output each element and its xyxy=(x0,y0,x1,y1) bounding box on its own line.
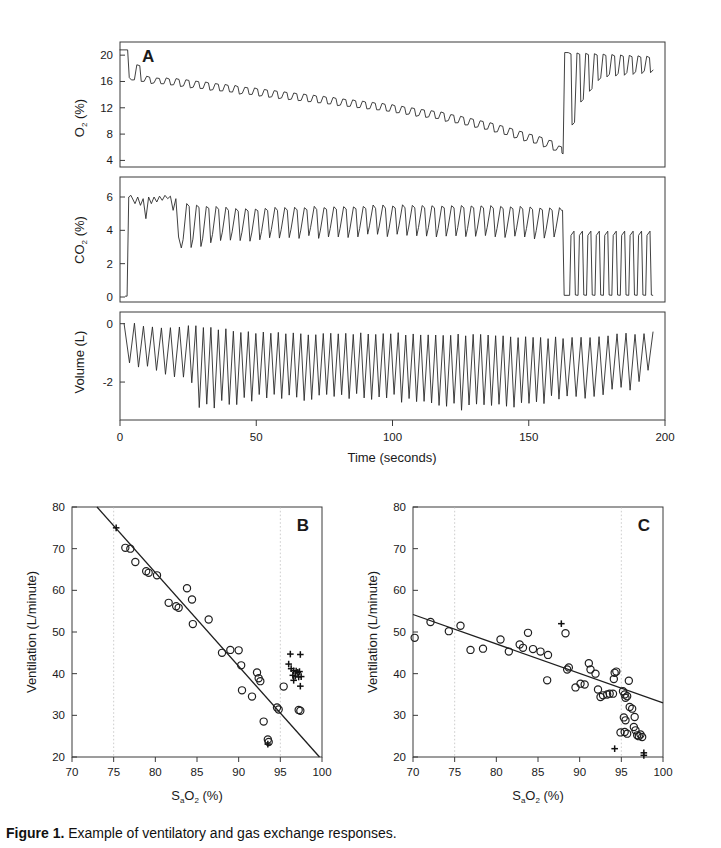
data-point-circle xyxy=(280,683,287,690)
data-point-plus xyxy=(287,651,294,658)
caption-text: Example of ventilatory and gas exchange … xyxy=(68,825,396,841)
data-point-circle xyxy=(592,670,599,677)
panel-c-y-axis-text: Ventilation (L/minute) xyxy=(365,571,380,693)
data-point-circle xyxy=(524,629,531,636)
tick-label: 75 xyxy=(448,766,461,778)
tick-label: 85 xyxy=(191,766,204,778)
data-point-circle xyxy=(581,681,588,688)
data-point-circle xyxy=(248,693,255,700)
panel-c-x-o: O xyxy=(525,788,535,803)
panel-a-x-axis-label: Time (seconds) xyxy=(347,450,436,465)
data-point-circle xyxy=(544,677,551,684)
tick-label: 16 xyxy=(100,75,113,87)
data-point-circle xyxy=(457,622,464,629)
tick-label: 95 xyxy=(615,766,628,778)
panel-a-x-ticks: 050100150200 xyxy=(117,420,675,443)
tick-label: 150 xyxy=(519,431,538,443)
oxygen-y-ticks: 48121620 xyxy=(100,49,125,166)
data-point-plus xyxy=(558,620,565,627)
volume-y-ticks: 0-2 xyxy=(103,318,125,388)
data-point-circle xyxy=(165,599,172,606)
panel-a-co2-subplot: 0246 CO2 (%) xyxy=(72,177,665,303)
figure-container: 48121620 A O2 (%) 0246 CO2 (%) xyxy=(0,0,721,848)
tick-label: 6 xyxy=(107,191,113,203)
tick-label: 70 xyxy=(393,543,406,555)
co2-label-unit: (%) xyxy=(72,216,87,240)
volume-label-text: Volume (L) xyxy=(72,331,87,394)
panel-b-x-unit: (%) xyxy=(199,788,223,803)
tick-label: 100 xyxy=(383,431,402,443)
data-point-circle xyxy=(562,630,569,637)
data-point-circle xyxy=(238,687,245,694)
tick-label: 90 xyxy=(573,766,586,778)
tick-label: 30 xyxy=(52,709,65,721)
tick-label: 2 xyxy=(107,258,113,270)
tick-label: 80 xyxy=(490,766,503,778)
tick-label: 200 xyxy=(655,431,674,443)
panel-c-x-s: S xyxy=(512,788,521,803)
tick-label: 8 xyxy=(107,128,113,140)
panel-c: 707580859095100 20304050607080 C Ventila… xyxy=(365,501,673,805)
panel-a-oxygen-subplot: 48121620 A O2 (%) xyxy=(72,42,665,167)
data-point-circle xyxy=(235,647,242,654)
tick-label: 70 xyxy=(407,766,420,778)
data-point-circle xyxy=(631,713,638,720)
panel-c-x-unit: (%) xyxy=(540,788,564,803)
data-point-plus xyxy=(297,683,304,690)
data-point-circle xyxy=(572,684,579,691)
panel-b: 707580859095100 20304050607080 B Ventila… xyxy=(24,501,332,805)
panel-b-plot-frame xyxy=(72,507,322,757)
oxygen-axis-label: O2 (%) xyxy=(72,99,89,137)
volume-axis-label: Volume (L) xyxy=(72,331,87,394)
figure-svg: 48121620 A O2 (%) 0246 CO2 (%) xyxy=(0,0,721,848)
tick-label: 50 xyxy=(393,626,406,638)
data-point-plus xyxy=(297,651,304,658)
tick-label: 4 xyxy=(107,224,114,236)
panel-a-volume-subplot: 0-2 Volume (L) xyxy=(72,312,665,420)
tick-label: 0 xyxy=(117,431,123,443)
panel-c-y-ticks: 20304050607080 xyxy=(393,501,418,763)
data-point-circle xyxy=(260,718,267,725)
oxygen-label-main: O xyxy=(72,127,87,137)
data-point-circle xyxy=(445,628,452,635)
data-point-circle xyxy=(537,648,544,655)
data-point-circle xyxy=(189,620,196,627)
tick-label: 80 xyxy=(52,501,65,513)
oxygen-label-unit: (%) xyxy=(72,99,87,123)
co2-y-ticks: 0246 xyxy=(107,191,125,303)
tick-label: 40 xyxy=(52,668,65,680)
data-point-circle xyxy=(411,634,418,641)
co2-trace xyxy=(125,195,652,296)
data-point-circle xyxy=(227,646,234,653)
tick-label: 20 xyxy=(393,751,406,763)
svg-text:O2 (%): O2 (%) xyxy=(72,99,89,137)
tick-label: 100 xyxy=(653,766,672,778)
volume-trace xyxy=(124,323,653,410)
panel-c-label: C xyxy=(638,516,650,535)
panel-a: 48121620 A O2 (%) 0246 CO2 (%) xyxy=(72,42,675,465)
panel-c-x-ticks: 707580859095100 xyxy=(407,757,673,778)
co2-axis-label: CO2 (%) xyxy=(72,216,89,264)
data-point-circle xyxy=(205,616,212,623)
panel-b-x-s: S xyxy=(171,788,180,803)
tick-label: 60 xyxy=(393,584,406,596)
panel-c-gridlines xyxy=(455,507,622,757)
tick-label: 0 xyxy=(107,318,113,330)
tick-label: 90 xyxy=(232,766,245,778)
panel-b-y-ticks: 20304050607080 xyxy=(52,501,77,763)
tick-label: 40 xyxy=(393,668,406,680)
panel-b-x-axis-label: SaO2 (%) xyxy=(171,788,223,805)
figure-caption: Figure 1. Example of ventilatory and gas… xyxy=(6,824,715,842)
svg-text:CO2 (%): CO2 (%) xyxy=(72,216,89,264)
data-point-circle xyxy=(497,636,504,643)
data-point-circle xyxy=(467,646,474,653)
tick-label: 85 xyxy=(532,766,545,778)
data-point-circle xyxy=(544,651,551,658)
panel-c-plot-frame xyxy=(413,507,663,757)
tick-label: 4 xyxy=(107,154,114,166)
panel-b-x-o: O xyxy=(184,788,194,803)
tick-label: 30 xyxy=(393,709,406,721)
panel-c-data-points xyxy=(411,618,647,758)
panel-b-y-axis-label: Ventilation (L/minute) xyxy=(24,571,39,693)
data-point-circle xyxy=(127,545,134,552)
